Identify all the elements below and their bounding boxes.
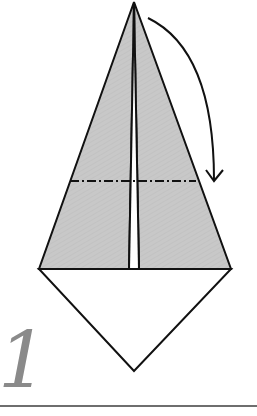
kite-flap-right xyxy=(134,2,231,269)
divider-rule xyxy=(0,405,257,407)
step-number: 1 xyxy=(0,322,48,400)
kite-flap-left xyxy=(39,2,134,269)
bottom-triangle xyxy=(39,269,231,371)
